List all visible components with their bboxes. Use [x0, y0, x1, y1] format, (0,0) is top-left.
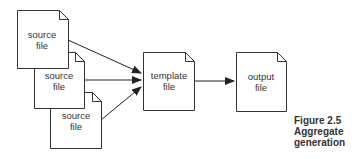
template-file: template file: [144, 53, 195, 111]
source-file-2-label-line2: file: [53, 81, 65, 92]
source-file-3-label-line1: source: [62, 110, 91, 121]
caption-line-3: generation: [294, 137, 356, 148]
output-file-label-line2: file: [255, 82, 267, 93]
caption-line-2: Aggregate: [294, 126, 356, 137]
source-file-3-label-line2: file: [70, 121, 82, 132]
source-file-1: source file: [18, 11, 69, 69]
source-file-1-label-line1: source: [28, 29, 57, 40]
figure-caption: Figure 2.5 Aggregate generation: [294, 115, 356, 148]
source-file-2-label-line1: source: [45, 70, 74, 81]
figure-number: Figure 2.5: [294, 115, 356, 126]
template-file-label-line2: file: [163, 81, 175, 92]
template-file-label-line1: template: [151, 70, 187, 81]
source-file-1-label-line2: file: [36, 40, 48, 51]
edge-source3-template: [101, 87, 141, 120]
output-file: output file: [237, 53, 287, 112]
output-file-label-line1: output: [248, 71, 275, 82]
